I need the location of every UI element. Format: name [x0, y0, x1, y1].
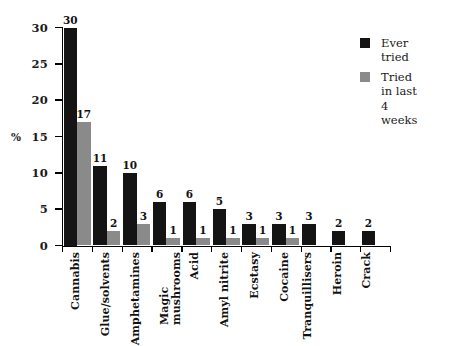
bar-ever-tried [332, 231, 346, 246]
x-axis-category-label: Heroin [332, 252, 344, 295]
y-axis-tick [55, 208, 62, 209]
bar-chart: % 051015202530 30171121036161513131322 C… [0, 0, 460, 346]
bar-ever-tried [362, 231, 376, 246]
x-axis-category-label: Amyl nitrite [219, 252, 231, 327]
x-axis-tick [241, 246, 242, 252]
x-axis-tick [211, 246, 212, 252]
bar-value-label: 5 [208, 196, 232, 207]
bar-value-label: 1 [251, 225, 275, 236]
bar-tried-last-4-weeks [137, 224, 151, 246]
bar-value-label: 3 [297, 211, 321, 222]
legend-label: Ever tried [381, 36, 409, 65]
bar-tried-last-4-weeks [226, 238, 240, 245]
bar-value-label: 6 [148, 189, 172, 200]
bar-ever-tried [64, 28, 78, 246]
bar-tried-last-4-weeks [166, 238, 180, 245]
bar-value-label: 1 [221, 225, 245, 236]
bar-tried-last-4-weeks [286, 238, 300, 245]
x-axis-category-label: Acid [189, 252, 201, 280]
gray-square-swatch-icon [360, 72, 370, 82]
y-axis-tick-label: 20 [14, 93, 48, 107]
bar-value-label: 11 [88, 153, 112, 164]
x-axis-tick [62, 246, 63, 252]
y-axis-tick [55, 99, 62, 100]
y-axis-tick [55, 172, 62, 173]
x-axis-category-label: Crack [361, 252, 373, 289]
bar-value-label: 10 [118, 160, 142, 171]
x-axis-tick [122, 246, 123, 252]
x-axis-tick [390, 246, 391, 252]
bar-value-label: 30 [59, 15, 83, 26]
x-axis-line [62, 246, 390, 247]
x-axis-category-label: Amphetamines [130, 252, 142, 345]
bar-value-label: 3 [237, 211, 261, 222]
bar-ever-tried [183, 202, 197, 246]
y-axis-tick [55, 27, 62, 28]
bar-value-label: 2 [102, 218, 126, 229]
x-axis-tick [271, 246, 272, 252]
bar-tried-last-4-weeks [196, 238, 210, 245]
x-axis-category-label: Tranquillisers [302, 252, 314, 339]
black-square-swatch-icon [360, 38, 370, 48]
y-axis-tick-label: 30 [14, 21, 48, 35]
y-axis-tick-label: 25 [14, 57, 48, 71]
x-axis-tick [92, 246, 93, 252]
bar-value-label: 2 [357, 218, 381, 229]
y-axis-tick-label: 15 [14, 130, 48, 144]
bar-ever-tried [153, 202, 167, 246]
bar-value-label: 2 [327, 218, 351, 229]
y-axis-tick-label: 10 [14, 166, 48, 180]
bar-tried-last-4-weeks [256, 238, 270, 245]
bar-value-label: 17 [72, 109, 96, 120]
legend-label: Tried in last 4 weeks [381, 70, 417, 128]
x-axis-category-label: Glue/solvents [100, 252, 112, 336]
y-axis-tick-label: 5 [14, 202, 48, 216]
x-axis-category-label: Cocaine [279, 252, 291, 302]
bar-tried-last-4-weeks [107, 231, 121, 246]
y-axis-tick-label: 0 [14, 239, 48, 253]
bar-ever-tried [123, 173, 137, 246]
bar-value-label: 3 [267, 211, 291, 222]
x-axis-tick [151, 246, 152, 252]
x-axis-category-label: Ecstasy [249, 252, 261, 299]
x-axis-category-label: Cannabis [70, 252, 82, 310]
bar-tried-last-4-weeks [77, 122, 91, 246]
bar-value-label: 3 [132, 211, 156, 222]
y-axis-tick [55, 63, 62, 64]
bar-value-label: 1 [191, 225, 215, 236]
bar-ever-tried [302, 224, 316, 246]
bar-ever-tried [93, 166, 107, 246]
bar-value-label: 6 [178, 189, 202, 200]
bar-value-label: 1 [161, 225, 185, 236]
bar-value-label: 1 [281, 225, 305, 236]
y-axis-tick [55, 245, 62, 246]
y-axis-tick [55, 136, 62, 137]
x-axis-category-label: Magic mushrooms [159, 252, 182, 325]
